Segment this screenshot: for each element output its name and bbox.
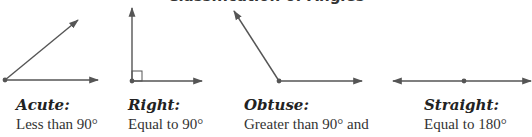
straight-label: Straight: bbox=[424, 96, 499, 114]
acute-description: Less than 90° bbox=[16, 116, 98, 133]
acute-label: Acute: bbox=[16, 96, 70, 114]
angle-figures bbox=[0, 0, 532, 95]
obtuse-angle-figure bbox=[234, 11, 362, 83]
straight-description: Equal to 180° bbox=[424, 116, 507, 133]
straight-angle-figure bbox=[393, 79, 531, 84]
right-angle-figure bbox=[130, 8, 202, 83]
right-label: Right: bbox=[128, 96, 180, 114]
acute-angle-figure bbox=[3, 20, 98, 82]
obtuse-description: Greater than 90° and bbox=[244, 116, 369, 133]
right-description: Equal to 90° bbox=[128, 116, 203, 133]
obtuse-label: Obtuse: bbox=[244, 96, 309, 114]
